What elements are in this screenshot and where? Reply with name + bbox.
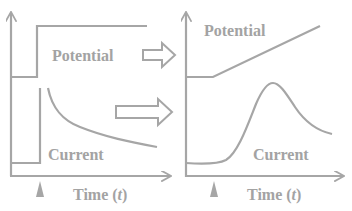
left-current-label: Current — [48, 146, 104, 163]
electrochemistry-diagram: Potential Current Time (t) Potential Cur… — [0, 0, 352, 211]
right-panel: Potential Current Time (t) — [185, 13, 343, 204]
left-start-marker-icon — [36, 181, 44, 197]
right-start-marker-icon — [210, 181, 218, 197]
right-potential-label: Potential — [204, 22, 266, 39]
right-current-label: Current — [253, 146, 309, 163]
bottom-hollow-arrow-icon — [116, 99, 172, 125]
left-time-label: Time (t) — [73, 186, 127, 204]
top-hollow-arrow-icon — [143, 43, 175, 67]
right-time-label: Time (t) — [247, 186, 301, 204]
left-current-baseline — [11, 88, 40, 163]
left-potential-label: Potential — [52, 47, 114, 64]
